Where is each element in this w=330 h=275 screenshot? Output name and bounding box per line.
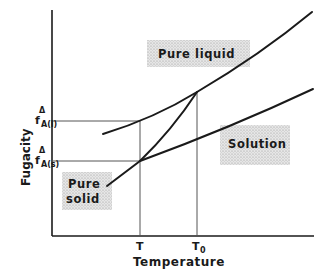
svg-text:f: f: [35, 114, 40, 127]
x-axis-label: Temperature: [133, 255, 225, 269]
svg-text:A(l): A(l): [41, 120, 57, 129]
y-tick-f-liquid: f Δ A(l): [35, 106, 57, 129]
x-tick-T0: T 0: [192, 240, 206, 255]
svg-text:Δ: Δ: [39, 146, 46, 155]
pure-liquid-text: Pure liquid: [158, 47, 235, 61]
curve-pure-liquid: [103, 12, 312, 134]
label-solution: Solution: [220, 125, 290, 165]
svg-text:Δ: Δ: [39, 106, 46, 115]
svg-text:f: f: [35, 154, 40, 167]
pure-solid-text-2: solid: [66, 192, 100, 206]
fugacity-diagram: Pure liquid Solution Pure solid Fugacity…: [0, 0, 330, 275]
svg-text:A(s): A(s): [41, 160, 59, 169]
y-axis-label: Fugacity: [19, 128, 33, 186]
pure-solid-text-1: Pure: [68, 177, 101, 191]
label-pure-liquid: Pure liquid: [147, 40, 250, 67]
svg-text:T: T: [192, 240, 200, 253]
curve-pure-solid: [107, 92, 197, 186]
y-tick-f-solid: f Δ A(s): [35, 146, 59, 169]
svg-text:0: 0: [200, 246, 206, 255]
guide-lines: [52, 92, 197, 236]
solution-text: Solution: [228, 137, 287, 151]
label-pure-solid: Pure solid: [62, 172, 112, 210]
x-tick-T: T: [136, 240, 144, 253]
